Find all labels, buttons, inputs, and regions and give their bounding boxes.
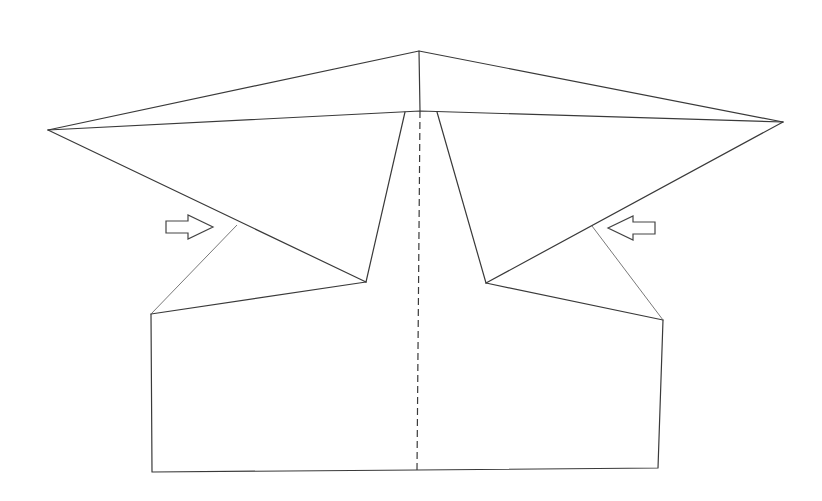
right-body-top-edge [486,283,663,320]
body-outline [151,314,663,472]
center-fold-dashed-line [417,111,420,470]
right-fold-guide-line [592,226,663,320]
wing-crease-line [48,111,783,130]
left-inner-flap-edge [366,112,405,282]
left-wing-lower-edge [48,130,366,282]
left-fold-guide-line [151,225,237,314]
left-push-arrow-icon [166,215,213,239]
right-push-arrow-icon [608,216,655,240]
right-wing-lower-edge [486,122,783,283]
center-solid-line [419,51,420,111]
right-inner-flap-edge [437,112,486,283]
folding-diagram [0,0,822,501]
left-body-top-edge [151,282,366,314]
